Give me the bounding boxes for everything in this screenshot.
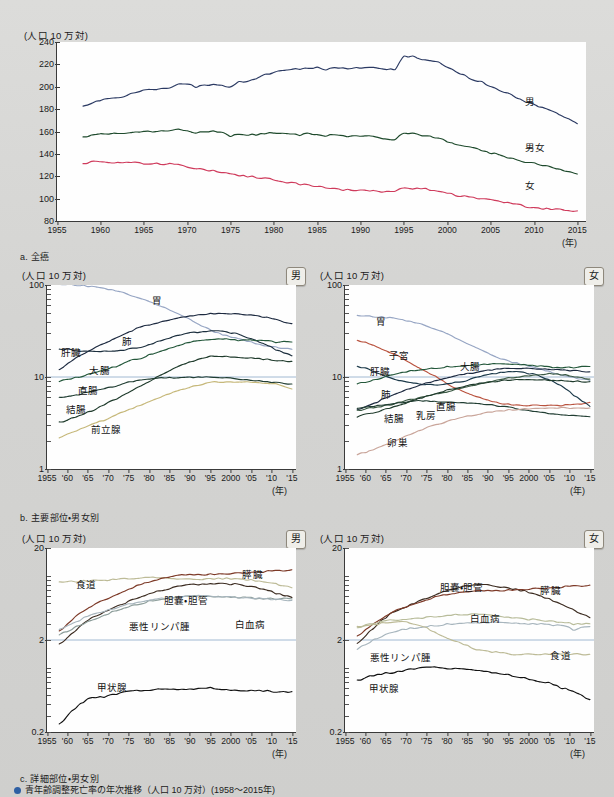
series-label-大腸: 大腸 (460, 359, 480, 373)
y-minor-tick (345, 640, 349, 641)
chart-a-all-cancer-svg (57, 42, 586, 221)
y-minor-tick (47, 603, 51, 604)
series-label-肝臓: 肝臓 (61, 345, 81, 359)
y-minor-tick (47, 333, 51, 334)
x-tick-label: 1965 (134, 221, 153, 235)
panel-b-female: (人口 10 万対) 女 1101001955'60'65'70'75'80'8… (312, 268, 602, 496)
y-minor-tick (345, 425, 349, 426)
y-minor-tick (345, 576, 349, 577)
x-tick-label: 2015 (568, 221, 587, 235)
x-tick-label: 1955 (37, 469, 56, 483)
panel-c-female-year-unit: (年) (570, 747, 585, 760)
x-tick-label: '80 (143, 469, 154, 483)
series-label-結腸: 結腸 (384, 411, 404, 425)
y-minor-tick (345, 441, 349, 442)
x-tick-label: '80 (441, 469, 452, 483)
x-tick-label: '60 (62, 732, 73, 746)
series-label-膵臓: 膵臓 (540, 583, 560, 597)
x-tick-label: '90 (184, 732, 195, 746)
y-minor-tick (47, 381, 51, 382)
x-tick-label: 1990 (351, 221, 370, 235)
y-minor-tick (47, 294, 51, 295)
series-label-前立腺: 前立腺 (91, 422, 122, 436)
y-minor-tick (345, 397, 349, 398)
x-tick-label: 1980 (264, 221, 283, 235)
panel-a-unit-label: (人口 10 万対) (24, 28, 88, 42)
figure-page: (人口 10 万対) 80100120140160180200220240195… (0, 0, 614, 797)
series-label-食道: 食道 (550, 648, 570, 662)
x-tick-label: '15 (286, 732, 297, 746)
panel-b-male: (人口 10 万対) 男 1101001955'60'65'70'75'80'8… (14, 268, 304, 496)
y-minor-tick (345, 377, 349, 378)
panel-c-female-unit-label: (人口 10 万対) (320, 531, 384, 545)
y-minor-tick (47, 313, 51, 314)
y-minor-tick (345, 624, 349, 625)
series-label-肺: 肺 (381, 387, 391, 401)
x-tick-label: '75 (421, 732, 432, 746)
y-minor-tick (345, 299, 349, 300)
badge-male-c: 男 (286, 530, 306, 549)
y-minor-tick (345, 580, 349, 581)
y-tick-label: 200 (39, 82, 54, 92)
series-label-胆嚢・胆管: 胆嚢・胆管 (440, 580, 484, 594)
y-minor-tick (345, 672, 349, 673)
y-tick-label: 100 (39, 194, 54, 204)
x-tick-label: '65 (380, 469, 391, 483)
y-minor-tick (47, 585, 51, 586)
x-tick-label: 2005 (481, 221, 500, 235)
y-minor-tick (47, 386, 51, 387)
footnote-text: 青年齢調整死亡率の年次推移（人口 10 万対）(1958〜2015年) (25, 785, 275, 795)
y-tick-label: 240 (39, 37, 54, 47)
x-tick-label: 2000 (438, 221, 457, 235)
series-label-胃: 胃 (152, 293, 162, 307)
series-label-乳房: 乳房 (416, 408, 436, 422)
y-minor-tick (345, 612, 349, 613)
series-label-白血病: 白血病 (235, 617, 266, 631)
x-tick-label: '80 (441, 732, 452, 746)
chart-a-plot-area: 8010012014016018020022024019551960196519… (56, 42, 586, 222)
x-tick-label: '10 (266, 732, 277, 746)
x-tick-label: 1995 (394, 221, 413, 235)
series-label-大腸: 大腸 (89, 363, 109, 377)
x-tick-label: '90 (482, 732, 493, 746)
x-tick-label: '90 (482, 469, 493, 483)
series-label-女: 女 (525, 178, 535, 192)
panel-c-female: (人口 10 万対) 女 0.22201955'60'65'70'75'80'8… (312, 531, 602, 759)
x-tick-label: '05 (245, 732, 256, 746)
y-minor-tick (47, 695, 51, 696)
series-line-女 (83, 161, 577, 211)
y-tick-label: 180 (39, 104, 54, 114)
y-minor-tick (345, 285, 349, 286)
series-label-胆嚢・胆管: 胆嚢・胆管 (164, 593, 208, 607)
x-tick-label: 2000 (519, 732, 538, 746)
y-minor-tick (345, 333, 349, 334)
y-minor-tick (47, 612, 51, 613)
y-tick-label: 20 (34, 543, 44, 553)
y-minor-tick (345, 716, 349, 717)
y-minor-tick (47, 716, 51, 717)
y-minor-tick (47, 322, 51, 323)
series-label-膵臓: 膵臓 (242, 567, 262, 581)
chart-b-male-svg (47, 285, 296, 469)
x-tick-label: 1975 (221, 221, 240, 235)
series-label-肝臓: 肝臓 (370, 364, 390, 378)
y-minor-tick (47, 548, 51, 549)
x-tick-label: '05 (543, 732, 554, 746)
y-minor-tick (345, 695, 349, 696)
x-tick-label: '75 (123, 732, 134, 746)
y-tick-label: 220 (39, 59, 54, 69)
x-tick-label: '65 (82, 469, 93, 483)
chart-b-female-plot-area: 1101001955'60'65'70'75'80'85'90'952000'0… (344, 285, 594, 470)
x-tick-label: '90 (184, 469, 195, 483)
series-label-肺: 肺 (122, 334, 132, 348)
x-tick-label: 2000 (221, 469, 240, 483)
y-minor-tick (47, 441, 51, 442)
y-minor-tick (47, 377, 51, 378)
y-minor-tick (345, 688, 349, 689)
y-minor-tick (47, 704, 51, 705)
series-line-甲状腺 (59, 687, 292, 723)
x-tick-label: '75 (123, 469, 134, 483)
y-minor-tick (345, 548, 349, 549)
y-minor-tick (47, 391, 51, 392)
x-tick-label: '95 (503, 732, 514, 746)
